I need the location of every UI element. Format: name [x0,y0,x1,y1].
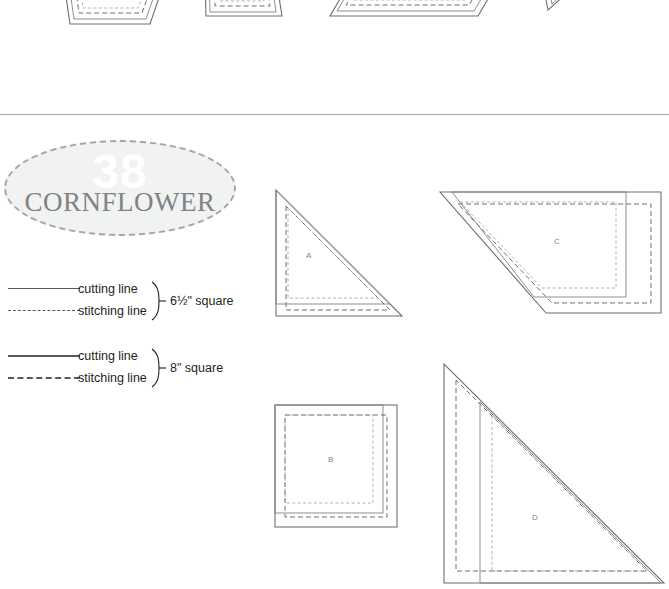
legend-8-cutting-row: cutting line [0,346,152,366]
legend-6-5-stitching-row: stitching line [0,301,152,321]
piece-c-label: C [554,237,560,246]
legend-brace-icon [150,348,168,388]
cutting-line-sample [8,355,80,357]
legend-8-size-label: 8" square [170,358,223,378]
legend-6-5-cutting-row: cutting line [0,279,152,299]
top-shape-triangle-tip [528,0,638,58]
template-piece-d: D [428,358,669,589]
piece-a-label: A [306,251,312,260]
piece-b-label: B [328,455,333,464]
legend-brace-icon [150,281,168,321]
top-shape-d: D [196,0,296,82]
section-divider [0,114,669,115]
block-badge: 38 CORNFLOWER [4,140,236,236]
cutting-line-sample [8,288,80,289]
legend-8-stitching-row: stitching line [0,368,152,388]
top-shape-c: C [38,0,198,82]
piece-d-label: D [532,513,538,522]
stitching-line-label: stitching line [78,368,147,388]
legend-6-5-size-label: 6½" square [170,291,234,311]
stitching-line-sample [8,310,80,311]
template-piece-c: C [428,178,669,318]
legend-6-5-square: cutting line stitching line 6½" square [0,279,240,331]
legend-8-square: cutting line stitching line 8" square [0,346,240,398]
template-piece-a: A [268,188,408,324]
template-piece-b: B [270,400,406,536]
badge-block-name: CORNFLOWER [4,186,236,218]
cutting-line-label: cutting line [78,279,138,299]
stitching-line-label: stitching line [78,301,147,321]
pattern-page: C D E 38 CORNFLOWER [0,0,669,589]
top-partial-shapes-row: C D E [0,0,669,114]
stitching-line-sample [8,377,80,379]
cutting-line-label: cutting line [78,346,138,366]
